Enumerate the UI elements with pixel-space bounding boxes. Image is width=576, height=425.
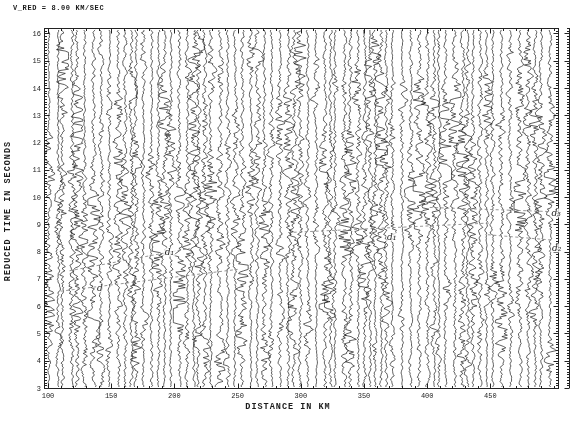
x-tick-label: 100	[33, 392, 63, 400]
x-tick-label: 250	[223, 392, 253, 400]
phase-label-d-1: d₁	[164, 247, 175, 256]
y-tick-label: 13	[0, 112, 41, 120]
y-tick-label: 14	[0, 85, 41, 93]
y-tick-label: 5	[0, 330, 41, 338]
x-tick-label: 350	[349, 392, 379, 400]
x-tick-label: 450	[475, 392, 505, 400]
record-section-canvas	[0, 0, 576, 425]
phase-label-d-0: d	[96, 283, 104, 292]
phase-label-d-2: d₁	[386, 233, 397, 242]
x-axis-title: DISTANCE IN KM	[0, 402, 576, 412]
y-tick-label: 6	[0, 303, 41, 311]
x-tick-label: 300	[286, 392, 316, 400]
seismic-record-section-figure: V_RED = 8.00 KM/SEC 34567891011121314151…	[0, 0, 576, 425]
y-tick-label: 15	[0, 57, 41, 65]
x-tick-label: 200	[159, 392, 189, 400]
x-tick-label: 400	[412, 392, 442, 400]
x-tick-label: 150	[96, 392, 126, 400]
phase-label-d-4: d₃	[550, 209, 561, 218]
y-tick-label: 4	[0, 357, 41, 365]
phase-label-d-3: d₂	[551, 243, 562, 252]
y-axis-title: REDUCED TIME IN SECONDS	[3, 131, 13, 291]
y-tick-label: 16	[0, 30, 41, 38]
plot-title: V_RED = 8.00 KM/SEC	[13, 4, 104, 12]
